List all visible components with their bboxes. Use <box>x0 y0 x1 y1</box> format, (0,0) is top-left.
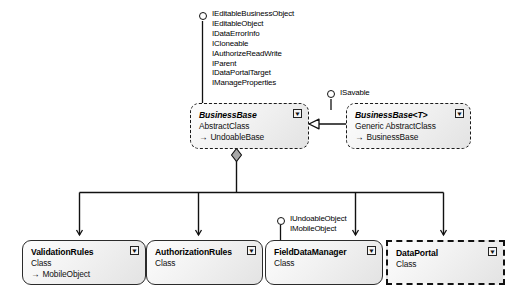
class-box-data-portal[interactable]: DataPortal Class ▼ <box>386 240 505 285</box>
interface-label: IAuthorizeReadWrite <box>212 49 294 59</box>
interface-label: IParent <box>212 59 294 69</box>
class-stereotype: AbstractClass <box>199 121 300 132</box>
collapse-icon[interactable]: ▼ <box>247 246 256 255</box>
class-box-business-base-generic[interactable]: BusinessBase<T> Generic AbstractClass Bu… <box>346 103 471 149</box>
class-base-type: UndoableBase <box>199 132 300 143</box>
uml-class-diagram: IEditableBusinessObject IEditableObject … <box>0 0 519 298</box>
collapse-icon[interactable]: ▼ <box>367 246 376 255</box>
class-name: AuthorizationRules <box>155 247 254 258</box>
interface-label: IDataPortalTarget <box>212 68 294 78</box>
interface-list-fielddatamanager: IUndoableObject IMobileObject <box>290 214 347 234</box>
collapse-icon[interactable]: ▼ <box>293 109 302 118</box>
class-name: DataPortal <box>396 248 495 259</box>
class-box-authorization-rules[interactable]: AuthorizationRules Class ▼ <box>146 240 263 285</box>
collapse-icon[interactable]: ▼ <box>488 247 497 256</box>
class-base-type: BusinessBase <box>355 132 462 143</box>
class-stereotype: Class <box>396 259 495 270</box>
class-box-business-base[interactable]: BusinessBase AbstractClass UndoableBase … <box>190 103 309 149</box>
class-stereotype: Class <box>155 258 254 269</box>
class-name: BusinessBase <box>199 110 300 121</box>
aggregation-diamond <box>232 149 242 162</box>
interface-label: IMobileObject <box>290 224 347 234</box>
class-name: ValidationRules <box>31 247 137 258</box>
interface-label: IUndoableObject <box>290 214 347 224</box>
class-box-validation-rules[interactable]: ValidationRules Class MobileObject ▼ <box>22 240 146 285</box>
interface-list-businessbase: IEditableBusinessObject IEditableObject … <box>212 9 294 88</box>
interface-label: IDataErrorInfo <box>212 29 294 39</box>
lollipop-icon-fielddatamanager <box>277 217 285 225</box>
interface-label: IEditableBusinessObject <box>212 9 294 19</box>
lollipop-icon-businessbase <box>199 12 207 20</box>
interface-label: IManageProperties <box>212 78 294 88</box>
interface-label: IEditableObject <box>212 19 294 29</box>
collapse-icon[interactable]: ▼ <box>130 246 139 255</box>
interface-label-isavable: ISavable <box>340 88 370 98</box>
interface-label: ICloneable <box>212 39 294 49</box>
lollipop-icon-isavable <box>327 90 335 98</box>
class-stereotype: Generic AbstractClass <box>355 121 462 132</box>
class-name: BusinessBase<T> <box>355 110 462 121</box>
class-stereotype: Class <box>31 258 137 269</box>
class-stereotype: Class <box>274 258 374 269</box>
collapse-icon[interactable]: ▼ <box>455 109 464 118</box>
class-box-field-data-manager[interactable]: FieldDataManager Class ▼ <box>265 240 383 285</box>
class-base-type: MobileObject <box>31 269 137 280</box>
inheritance-triangle <box>309 119 319 129</box>
class-name: FieldDataManager <box>274 247 374 258</box>
